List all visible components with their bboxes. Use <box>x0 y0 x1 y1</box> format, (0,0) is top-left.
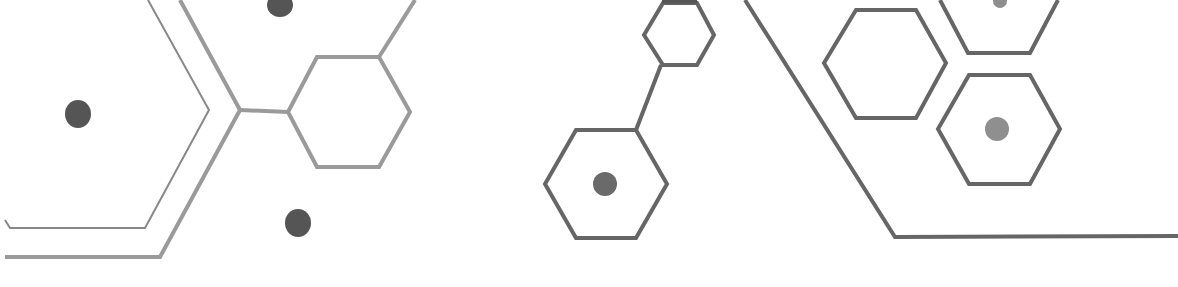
left-molecule-group <box>5 0 415 257</box>
long-bracket-line <box>745 0 1178 237</box>
atom-dot-icon <box>993 0 1007 8</box>
partial-hexagon-ring-icon <box>940 0 1058 53</box>
small-hexagon-ring-icon <box>644 3 714 65</box>
right-molecule-group <box>745 0 1178 237</box>
decorative-artwork <box>0 0 1178 287</box>
bond-connector-line <box>636 65 661 130</box>
middle-molecule-group <box>545 0 714 238</box>
bond-connector-line <box>240 110 288 112</box>
atom-dot-icon <box>267 0 293 17</box>
atom-dot-icon <box>985 117 1009 141</box>
hexagon-molecule-graphic <box>0 0 1178 287</box>
atom-dot-icon <box>65 100 91 128</box>
atom-dot-icon <box>285 209 311 237</box>
branch-bond-line <box>379 0 415 57</box>
atom-dot-icon <box>593 172 617 196</box>
thin-bracket-line <box>5 0 209 228</box>
hexagon-ring-icon <box>824 10 946 118</box>
thick-bracket-line <box>5 0 240 257</box>
hexagon-ring-icon <box>288 57 410 167</box>
